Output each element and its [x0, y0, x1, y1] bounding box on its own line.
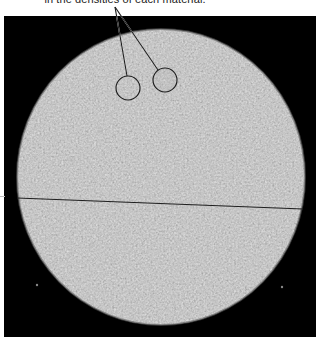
ct-image — [0, 0, 320, 341]
marker-dot — [36, 284, 38, 286]
marker-dot — [281, 286, 283, 288]
